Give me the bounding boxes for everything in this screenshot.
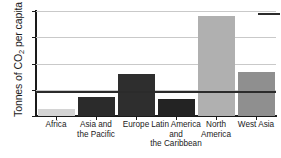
y-axis-title: Tonnes of CO2 per capita	[12, 7, 24, 117]
bar	[118, 74, 155, 116]
bar	[158, 99, 195, 116]
bar	[38, 109, 75, 116]
bar	[78, 97, 115, 116]
x-axis-label-line: West Asia	[230, 120, 281, 130]
gridline	[36, 64, 276, 65]
reference-line-annotation	[36, 91, 276, 93]
x-axis-label-line: the Pacific	[70, 130, 122, 140]
y-tick-mark	[32, 11, 36, 12]
gridline	[36, 11, 276, 12]
y-axis-title-suffix: per capita	[12, 2, 24, 50]
y-tick-mark	[32, 116, 36, 117]
y-tick-mark	[32, 64, 36, 65]
legend-line-swatch	[258, 13, 280, 15]
y-tick-mark	[32, 37, 36, 38]
bar	[238, 72, 275, 116]
x-axis-labels: AfricaAsia andthe PacificEuropeLatin Ame…	[36, 120, 276, 158]
bar	[198, 16, 235, 116]
x-axis-label-line: America	[190, 130, 242, 140]
y-axis-title-subscript: 2	[17, 50, 26, 54]
x-axis-label: West Asia	[230, 120, 281, 130]
x-axis-label-line: the Caribbean	[150, 139, 202, 149]
bar-chart: Tonnes of CO2 per capita 05101520 Africa…	[0, 0, 281, 158]
gridline	[36, 37, 276, 38]
plot-area: 05101520	[36, 11, 276, 116]
y-axis-title-prefix: Tonnes of CO	[12, 54, 24, 117]
